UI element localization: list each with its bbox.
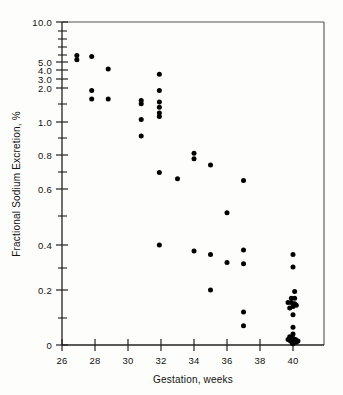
x-tick-label: 32: [155, 355, 166, 366]
y-tick-labels: 10.0 5.0 4.0 3.0 2.0 1.0 0.8 0.6 0.4 0.2…: [32, 17, 52, 351]
data-point: [192, 248, 197, 253]
data-point: [208, 252, 213, 257]
x-tick-label: 38: [254, 355, 265, 366]
data-point: [291, 325, 296, 330]
x-tick-label: 34: [188, 355, 199, 366]
data-point: [241, 248, 246, 253]
data-point: [139, 133, 144, 138]
data-point: [157, 243, 162, 248]
x-tick-labels: 26 28 30 32 34 36 38 40: [56, 355, 298, 366]
data-point: [291, 341, 296, 346]
y-axis-title: Fractional Sodium Excretion, %: [11, 111, 22, 257]
data-point: [292, 289, 297, 294]
plot-frame: [62, 22, 324, 345]
x-tick-label: 40: [287, 355, 298, 366]
data-point: [292, 296, 297, 301]
data-point: [295, 338, 300, 343]
y-tick-label: 0: [46, 340, 52, 351]
data-point-layer: [74, 53, 300, 346]
data-point: [241, 310, 246, 315]
data-point: [192, 156, 197, 161]
data-point: [294, 303, 299, 308]
data-point: [225, 260, 230, 265]
y-tick-label: 0.6: [38, 184, 52, 195]
x-tick-label: 28: [89, 355, 100, 366]
data-point: [106, 96, 111, 101]
data-point: [106, 67, 111, 72]
data-point: [291, 252, 296, 257]
data-point: [291, 312, 296, 317]
data-point: [286, 337, 291, 342]
data-point: [157, 105, 162, 110]
data-point: [208, 163, 213, 168]
y-tick-label: 1.0: [38, 117, 52, 128]
scatter-plot: 10.0 5.0 4.0 3.0 2.0 1.0 0.8 0.6 0.4 0.2…: [0, 0, 343, 395]
data-point: [74, 57, 79, 62]
data-point: [192, 151, 197, 156]
data-point: [241, 261, 246, 266]
y-tick-label: 2.0: [38, 83, 52, 94]
data-point: [287, 305, 292, 310]
data-point: [157, 114, 162, 119]
data-point: [157, 72, 162, 77]
data-point: [225, 210, 230, 215]
data-point: [175, 176, 180, 181]
figure-container: 10.0 5.0 4.0 3.0 2.0 1.0 0.8 0.6 0.4 0.2…: [0, 0, 343, 395]
y-tick-label: 0.2: [38, 285, 52, 296]
data-point: [157, 88, 162, 93]
y-tick-label: 0.4: [38, 240, 52, 251]
data-point: [241, 178, 246, 183]
y-tick-label: 10.0: [32, 17, 52, 28]
data-point: [139, 101, 144, 106]
data-point: [89, 88, 94, 93]
data-point: [157, 100, 162, 105]
x-axis-title: Gestation, weeks: [153, 374, 233, 385]
data-point: [157, 170, 162, 175]
x-tick-label: 30: [122, 355, 133, 366]
x-tick-label: 26: [56, 355, 67, 366]
data-point: [139, 117, 144, 122]
data-point: [89, 54, 94, 59]
y-tick-label: 0.8: [38, 150, 52, 161]
data-point: [241, 323, 246, 328]
data-point: [89, 96, 94, 101]
data-point: [291, 265, 296, 270]
data-point: [208, 288, 213, 293]
x-tick-label: 36: [221, 355, 232, 366]
data-point: [74, 53, 79, 58]
